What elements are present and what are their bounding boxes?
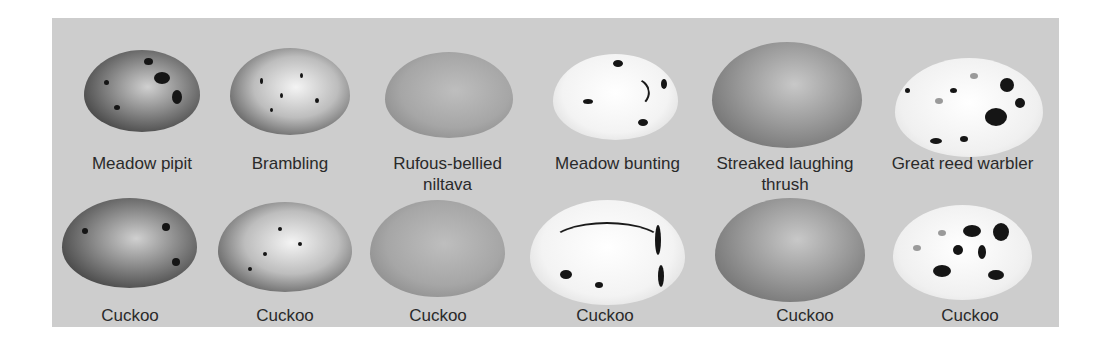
egg-cuckoo-5	[715, 198, 865, 302]
label-niltava: niltava	[360, 174, 535, 196]
egg-cuckoo-6	[893, 205, 1032, 300]
label-meadow-bunting: Meadow bunting	[535, 153, 700, 175]
label-rufous-bellied: Rufous-bellied	[360, 153, 535, 175]
egg-cuckoo-1	[62, 198, 197, 288]
egg-brambling	[230, 48, 350, 135]
label-cuckoo-6: Cuckoo	[910, 305, 1030, 327]
label-cuckoo-3: Cuckoo	[378, 305, 498, 327]
egg-great-reed-warbler	[895, 58, 1043, 157]
egg-streaked-laughing-thrush	[712, 42, 862, 148]
egg-cuckoo-2	[218, 202, 352, 292]
label-meadow-pipit: Meadow pipit	[62, 153, 222, 175]
egg-meadow-bunting	[553, 54, 678, 140]
label-cuckoo-1: Cuckoo	[70, 305, 190, 327]
label-great-reed-warbler: Great reed warbler	[870, 153, 1055, 175]
label-thrush: thrush	[690, 174, 880, 196]
label-brambling: Brambling	[215, 153, 365, 175]
label-cuckoo-2: Cuckoo	[225, 305, 345, 327]
egg-meadow-pipit	[84, 50, 200, 132]
egg-cuckoo-3	[370, 200, 505, 297]
label-cuckoo-5: Cuckoo	[745, 305, 865, 327]
egg-rufous-bellied-niltava	[385, 52, 513, 138]
label-streaked-laughing: Streaked laughing	[690, 153, 880, 175]
egg-cuckoo-4	[530, 200, 685, 305]
label-cuckoo-4: Cuckoo	[545, 305, 665, 327]
